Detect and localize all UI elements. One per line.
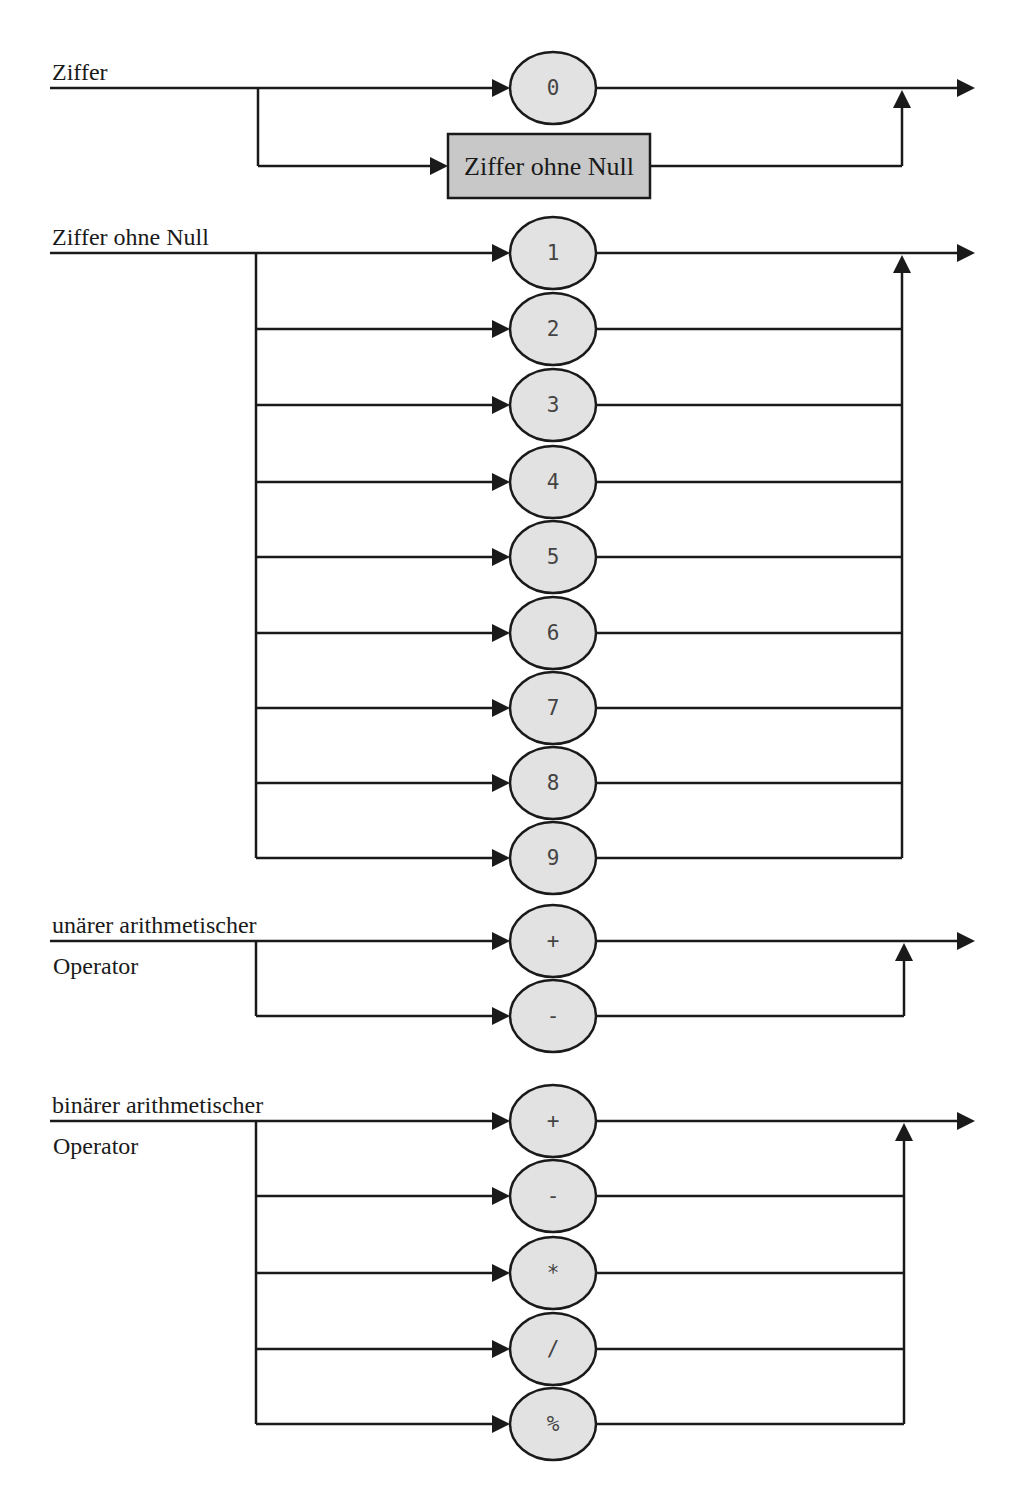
syntax-diagrams: Ziffer0Ziffer ohne NullZiffer ohne Null1… (0, 0, 1020, 1498)
terminal-symbol: - (547, 1184, 560, 1208)
terminal-symbol: - (547, 1004, 560, 1028)
arrow-right-icon (492, 774, 510, 792)
exit-arrow-icon (957, 932, 975, 950)
terminal-symbol: / (547, 1337, 560, 1361)
arrow-right-icon (492, 699, 510, 717)
arrow-right-icon (492, 1415, 510, 1433)
exit-arrow-icon (957, 79, 975, 97)
rule-label: Operator (53, 953, 138, 979)
arrow-right-icon (492, 1187, 510, 1205)
terminal-symbol: 4 (547, 470, 560, 494)
terminal-symbol: % (547, 1412, 560, 1436)
arrow-right-icon (492, 396, 510, 414)
arrow-right-icon (492, 320, 510, 338)
arrow-right-icon (492, 1112, 510, 1130)
arrow-right-icon (492, 79, 510, 97)
arrow-right-icon (430, 157, 448, 175)
exit-arrow-icon (957, 1112, 975, 1130)
arrow-right-icon (492, 244, 510, 262)
arrow-right-icon (492, 849, 510, 867)
terminal-symbol: 5 (547, 545, 560, 569)
terminal-symbol: * (547, 1261, 560, 1285)
syntax-diagram-unaerer-arithmetischer-operator: unärer arithmetischerOperator+- (50, 905, 975, 1052)
arrow-right-icon (492, 473, 510, 491)
exit-arrow-icon (957, 244, 975, 262)
arrow-right-icon (492, 548, 510, 566)
rule-label: Ziffer (52, 59, 108, 85)
rule-label: unärer arithmetischer (52, 912, 257, 938)
terminal-symbol: 7 (547, 696, 560, 720)
terminal-symbol: 1 (547, 241, 560, 265)
arrow-right-icon (492, 1007, 510, 1025)
terminal-symbol: + (547, 1109, 560, 1133)
syntax-diagram-ziffer: Ziffer0Ziffer ohne Null (50, 52, 975, 198)
arrow-up-icon (893, 90, 911, 108)
terminal-symbol: 9 (547, 846, 560, 870)
terminal-symbol: 3 (547, 393, 560, 417)
terminal-symbol: 2 (547, 317, 560, 341)
nonterminal-label: Ziffer ohne Null (464, 152, 634, 181)
arrow-right-icon (492, 1340, 510, 1358)
arrow-right-icon (492, 624, 510, 642)
arrow-up-icon (895, 943, 913, 961)
syntax-diagram-binaerer-arithmetischer-operator: binärer arithmetischerOperator+-*/% (50, 1085, 975, 1460)
rule-label: Ziffer ohne Null (52, 224, 209, 250)
arrow-up-icon (893, 255, 911, 273)
terminal-symbol: + (547, 929, 560, 953)
terminal-symbol: 6 (547, 621, 560, 645)
syntax-diagram-ziffer-ohne-null: Ziffer ohne Null123456789 (50, 217, 975, 894)
arrow-right-icon (492, 932, 510, 950)
arrow-right-icon (492, 1264, 510, 1282)
arrow-up-icon (895, 1123, 913, 1141)
rule-label: Operator (53, 1133, 138, 1159)
rule-label: binärer arithmetischer (52, 1092, 263, 1118)
terminal-symbol: 8 (547, 771, 560, 795)
terminal-symbol: 0 (547, 76, 560, 100)
